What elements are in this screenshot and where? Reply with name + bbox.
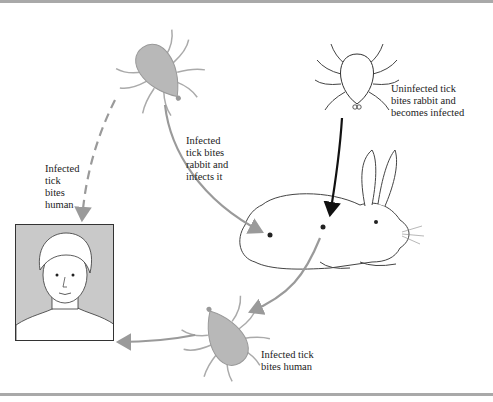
label-uninfected-tick-bites-rabbit: Uninfected tick bites rabbit and becomes… (391, 83, 464, 119)
tick-bite-mark-2-icon (321, 225, 326, 230)
human-face-icon (16, 225, 114, 341)
infected-tick-top-icon (108, 23, 218, 130)
label-infected-tick-bites-rabbit: Infected tick bites rabbit and infects i… (186, 135, 228, 183)
label-infected-tick-bites-human-dashed: Infected tick bites human (45, 163, 79, 211)
tick-bite-mark-1-icon (268, 233, 273, 238)
arrow-infected-tick-to-human (118, 335, 195, 342)
infected-tick-bottom-icon (171, 286, 282, 394)
uninfected-tick-icon (315, 44, 399, 110)
arrow-infected-tick-to-human-dashed (82, 100, 115, 220)
label-infected-tick-bites-human: Infected tick bites human (261, 349, 314, 373)
human-portrait (15, 224, 114, 341)
